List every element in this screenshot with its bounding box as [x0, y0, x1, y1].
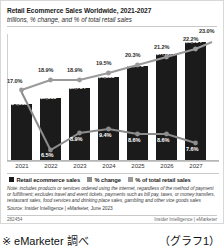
point-change-2023	[77, 130, 82, 135]
share-label-2027: 22.2%	[183, 36, 198, 42]
share-label-2027b: 23.0%	[199, 28, 214, 34]
share-label-2021: 17.0%	[7, 78, 22, 84]
line-series-overlay	[7, 28, 219, 161]
x-tick-2022: 2022	[36, 163, 66, 169]
chart-subtitle: trillions, % change, and % of total reta…	[7, 15, 217, 24]
legend-label-sales: Retail ecommerce sales	[17, 177, 81, 183]
legend-swatch-sales	[9, 177, 14, 182]
line-pct-change	[22, 92, 196, 150]
caption-left: ※ eMarketer 調べ	[2, 232, 89, 248]
share-label-2025: 20.3%	[125, 52, 140, 58]
x-tick-2026: 2026	[152, 163, 182, 169]
chart-title: Retail Ecommerce Sales Worldwide, 2021-2…	[7, 6, 217, 15]
share-label-2024: 19.5%	[96, 60, 111, 66]
chart-brand: Insider Intelligence | eMarketer	[154, 217, 217, 222]
change-label-2024: 9.4%	[99, 132, 111, 138]
x-tick-2024: 2024	[94, 163, 124, 169]
share-label-2023: 18.9%	[67, 67, 82, 73]
point-share-2023	[77, 77, 82, 82]
chart-id: 282454	[7, 217, 22, 222]
plot-inner: $4,988 $5,311 $5,784 $6,330 $6,876 $7,46…	[7, 28, 219, 161]
change-label-2023: 8.9%	[70, 136, 82, 142]
change-label-2026: 8.6%	[157, 137, 169, 143]
point-share-2025	[135, 62, 140, 67]
x-tick-2021: 2021	[7, 163, 37, 169]
line-share-of-total	[22, 42, 213, 90]
point-share-2021	[19, 87, 24, 92]
chart-legend: Retail ecommerce sales % change % of tot…	[7, 177, 217, 183]
point-share-2022	[48, 77, 53, 82]
legend-divider	[7, 173, 219, 174]
point-change-2027	[193, 140, 198, 145]
plot-area: $4,988 $5,311 $5,784 $6,330 $6,876 $7,46…	[7, 28, 219, 161]
chart-footer: 282454 Insider Intelligence | eMarketer	[7, 217, 217, 222]
header-divider	[7, 26, 217, 27]
point-share-2026	[164, 54, 169, 59]
legend-swatch-share	[128, 177, 133, 182]
change-label-2025: 8.6%	[128, 137, 140, 143]
x-axis-labels: 2021 2022 2023 2024 2025 2026 2027	[7, 162, 219, 173]
legend-item-sales: Retail ecommerce sales	[9, 177, 80, 183]
chart-note: Note: includes products or services orde…	[7, 186, 217, 205]
figure-caption: ※ eMarketer 調べ （グラフ1）	[0, 224, 224, 252]
x-tick-2027: 2027	[181, 163, 211, 169]
point-change-2026	[164, 131, 169, 136]
point-change-2025	[135, 131, 140, 136]
point-share-2024	[106, 70, 111, 75]
legend-label-share: % of total retail sales	[135, 177, 190, 183]
change-label-2022: 6.5%	[41, 152, 53, 158]
chart-card: Retail Ecommerce Sales Worldwide, 2021-2…	[0, 0, 224, 224]
x-tick-2025: 2025	[123, 163, 153, 169]
point-change-2024	[106, 126, 111, 131]
legend-swatch-change	[87, 177, 92, 182]
caption-right: （グラフ1）	[159, 232, 220, 248]
point-share-2027	[193, 46, 198, 51]
legend-label-change: % change	[95, 177, 121, 183]
share-label-2022: 18.9%	[38, 67, 53, 73]
legend-item-share: % of total retail sales	[128, 177, 191, 183]
share-label-2026: 21.2%	[154, 44, 169, 50]
legend-item-change: % change	[87, 177, 121, 183]
x-tick-2023: 2023	[65, 163, 95, 169]
footer-divider	[7, 215, 217, 216]
change-label-2027: 7.6%	[186, 146, 198, 152]
chart-source: Source: Insider Intelligence | eMarketer…	[7, 206, 217, 212]
